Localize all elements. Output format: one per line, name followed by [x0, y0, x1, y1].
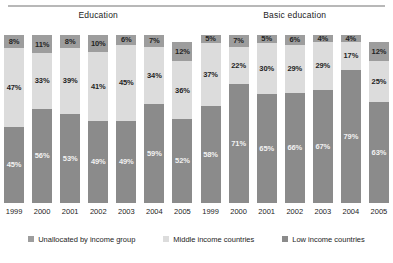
legend-item-middle[interactable]: Middle income countries	[163, 235, 254, 244]
top-divider	[8, 5, 385, 7]
segment-low-income: 66%	[285, 93, 305, 203]
bar-slot: 8%39%53%	[56, 27, 84, 203]
segment-value-label: 8%	[9, 38, 20, 46]
bar-slot: 10%41%49%	[84, 27, 112, 203]
segment-value-label: 6%	[289, 36, 300, 44]
bar-slot: 7%34%59%	[140, 27, 168, 203]
segment-value-label: 58%	[203, 151, 218, 159]
segment-value-label: 10%	[91, 40, 106, 48]
x-axis-tick-2005: 2005	[365, 207, 393, 216]
segment-middle-income: 29%	[285, 45, 305, 93]
segment-value-label: 67%	[315, 143, 330, 151]
bar-slot: 4%17%79%	[337, 27, 365, 203]
segment-value-label: 37%	[203, 71, 218, 79]
stacked-bar[interactable]: 4%29%67%	[313, 35, 333, 203]
segment-value-label: 30%	[259, 65, 274, 73]
segment-middle-income: 33%	[32, 53, 52, 108]
plot-education: 8%47%45%11%33%56%8%39%53%10%41%49%6%45%4…	[0, 27, 197, 203]
segment-unallocated: 5%	[257, 35, 277, 43]
segment-value-label: 79%	[344, 133, 359, 141]
segment-unallocated: 8%	[60, 35, 80, 48]
legend-item-unallocated[interactable]: Unallocated by income group	[28, 235, 135, 244]
stacked-bar[interactable]: 6%45%49%	[116, 35, 136, 203]
x-axis-tick-2004: 2004	[337, 207, 365, 216]
segment-value-label: 17%	[344, 52, 359, 60]
x-axis-tick-2000: 2000	[225, 207, 253, 216]
x-axis-tick-2000: 2000	[28, 207, 56, 216]
x-axis-tick-2002: 2002	[84, 207, 112, 216]
bar-slot: 6%29%66%	[281, 27, 309, 203]
segment-unallocated: 6%	[116, 35, 136, 45]
stacked-bar[interactable]: 8%39%53%	[60, 35, 80, 203]
x-axis-tick-1999: 1999	[0, 207, 28, 216]
segment-value-label: 36%	[175, 87, 190, 95]
segment-low-income: 49%	[88, 121, 108, 203]
x-axis-tick-1999: 1999	[197, 207, 225, 216]
segment-unallocated: 4%	[313, 35, 333, 42]
segment-value-label: 47%	[7, 84, 22, 92]
segment-middle-income: 22%	[229, 47, 249, 84]
segment-low-income: 71%	[229, 84, 249, 203]
segment-value-label: 53%	[63, 155, 78, 163]
stacked-bar[interactable]: 12%36%52%	[172, 42, 192, 203]
bar-slot: 6%45%49%	[112, 27, 140, 203]
segment-unallocated: 10%	[88, 35, 108, 52]
stacked-bar[interactable]: 5%30%65%	[257, 35, 277, 203]
segment-middle-income: 34%	[144, 47, 164, 104]
segment-value-label: 52%	[175, 157, 190, 165]
bar-slot: 4%29%67%	[309, 27, 337, 203]
stacked-bar[interactable]: 11%33%56%	[32, 35, 52, 203]
stacked-bar[interactable]: 7%34%59%	[144, 35, 164, 203]
panel-title-education: Education	[0, 10, 197, 20]
stacked-bar[interactable]: 4%17%79%	[341, 35, 361, 203]
segment-low-income: 63%	[369, 102, 389, 203]
legend-label: Unallocated by income group	[38, 235, 135, 244]
segment-value-label: 29%	[287, 65, 302, 73]
segment-value-label: 49%	[119, 158, 134, 166]
segment-value-label: 12%	[175, 48, 190, 56]
segment-low-income: 59%	[144, 104, 164, 203]
segment-low-income: 67%	[313, 90, 333, 203]
segment-value-label: 71%	[231, 140, 246, 148]
segment-low-income: 79%	[341, 70, 361, 203]
segment-unallocated: 11%	[32, 35, 52, 53]
segment-unallocated: 4%	[341, 35, 361, 42]
segment-middle-income: 36%	[172, 61, 192, 119]
stacked-bar[interactable]: 6%29%66%	[285, 35, 305, 203]
x-axis-tick-2001: 2001	[253, 207, 281, 216]
segment-value-label: 5%	[205, 35, 216, 43]
x-axis-tick-2004: 2004	[140, 207, 168, 216]
bar-slot: 5%37%58%	[197, 27, 225, 203]
segment-value-label: 22%	[231, 62, 246, 70]
legend-swatch-icon	[28, 236, 34, 242]
bar-slot: 7%22%71%	[225, 27, 253, 203]
segment-value-label: 49%	[91, 158, 106, 166]
chart-page: Education 8%47%45%11%33%56%8%39%53%10%41…	[0, 0, 393, 263]
segment-low-income: 45%	[4, 127, 24, 203]
chart-panels: Education 8%47%45%11%33%56%8%39%53%10%41…	[0, 10, 393, 225]
segment-middle-income: 25%	[369, 61, 389, 101]
stacked-bar[interactable]: 12%25%63%	[369, 42, 389, 203]
segment-middle-income: 30%	[257, 43, 277, 93]
legend-item-low[interactable]: Low income countries	[282, 235, 365, 244]
segment-middle-income: 29%	[313, 42, 333, 91]
legend-swatch-icon	[282, 236, 288, 242]
segment-unallocated: 5%	[201, 35, 221, 43]
x-axis-tick-2002: 2002	[281, 207, 309, 216]
stacked-bar[interactable]: 7%22%71%	[229, 35, 249, 203]
segment-middle-income: 41%	[88, 52, 108, 121]
stacked-bar[interactable]: 5%37%58%	[201, 35, 221, 203]
segment-value-label: 6%	[121, 36, 132, 44]
segment-low-income: 49%	[116, 121, 136, 203]
segment-value-label: 5%	[261, 35, 272, 43]
stacked-bar[interactable]: 8%47%45%	[4, 35, 24, 203]
segment-unallocated: 6%	[285, 35, 305, 45]
segment-low-income: 58%	[201, 106, 221, 203]
stacked-bar[interactable]: 10%41%49%	[88, 35, 108, 203]
segment-unallocated: 8%	[4, 35, 24, 48]
chart-legend: Unallocated by income groupMiddle income…	[0, 232, 393, 246]
bar-slot: 5%30%65%	[253, 27, 281, 203]
panel-basic-education: Basic education 5%37%58%7%22%71%5%30%65%…	[197, 10, 393, 225]
x-axis-education: 1999200020012002200320042005	[0, 207, 197, 221]
segment-middle-income: 37%	[201, 43, 221, 105]
